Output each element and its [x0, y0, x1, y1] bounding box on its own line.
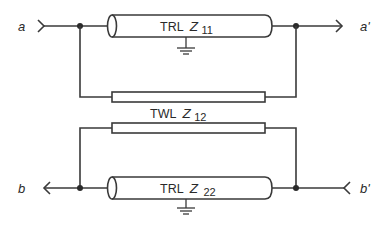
port-a-prime-label: a' [360, 19, 370, 34]
trl-z22-line: TRL Z 22 [108, 177, 273, 214]
trl-z22-end-ellipse [108, 177, 117, 199]
trl-z11-label: TRL Z 11 [160, 19, 213, 36]
port-b-label: b [18, 181, 25, 196]
wire-a-to-twl [80, 26, 112, 97]
circuit-diagram: a TRL Z 11 a' [0, 0, 390, 225]
trl-z11-line: TRL Z 11 [108, 15, 273, 54]
port-a: a [18, 19, 44, 34]
junction-dot-b [77, 185, 83, 191]
port-b-prime: b' [344, 181, 370, 196]
ground-icon [177, 37, 195, 54]
twl-z12-lower-strip [112, 123, 265, 133]
input-arrow-left-icon [344, 182, 350, 194]
twl-z12-upper-strip [112, 92, 265, 102]
trl-z11-end-ellipse [108, 15, 117, 37]
diagram-canvas: a TRL Z 11 a' [0, 0, 390, 225]
input-arrow-icon [38, 20, 44, 32]
ground-icon [177, 199, 195, 214]
port-a-prime: a' [336, 19, 370, 34]
junction-dot-b-prime [293, 185, 299, 191]
twl-z12-label: TWL Z 12 [150, 106, 206, 123]
port-b-prime-label: b' [360, 181, 370, 196]
trl-z22-label: TRL Z 22 [160, 181, 216, 198]
port-a-label: a [18, 19, 25, 34]
wire-twl-to-b [80, 128, 112, 188]
wire-twl-to-a-prime [265, 26, 296, 97]
